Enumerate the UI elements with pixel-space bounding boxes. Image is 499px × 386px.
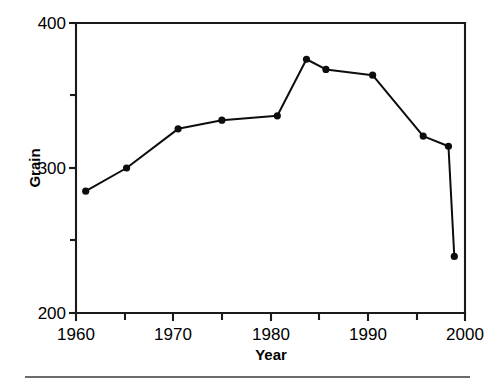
x-tick-label-1970: 1970	[154, 325, 192, 344]
x-axis-title: Year	[255, 346, 287, 363]
data-point	[82, 188, 89, 195]
x-tick-label-1960: 1960	[57, 325, 95, 344]
data-point	[175, 125, 182, 132]
data-point	[420, 133, 427, 140]
data-point	[451, 253, 458, 260]
data-point	[322, 66, 329, 73]
y-tick-label-200: 200	[38, 304, 66, 323]
x-tick-label-1980: 1980	[252, 325, 290, 344]
data-point	[303, 56, 310, 63]
x-tick-label-2000: 2000	[446, 325, 484, 344]
series-line-grain	[86, 59, 455, 256]
data-point	[274, 112, 281, 119]
y-tick-label-400: 400	[38, 14, 66, 33]
data-point	[445, 143, 452, 150]
data-series-grain	[82, 56, 458, 260]
chart-figure: 400 300 200 1960 1970 1980 1990 2000 Gra…	[0, 0, 499, 386]
y-axis-title: Grain	[26, 148, 43, 187]
grain-vs-year-line-chart: 400 300 200 1960 1970 1980 1990 2000 Gra…	[0, 0, 499, 386]
x-tick-label-1990: 1990	[349, 325, 387, 344]
data-point	[123, 164, 130, 171]
data-point	[218, 117, 225, 124]
plot-frame	[76, 23, 465, 313]
data-point	[369, 72, 376, 79]
x-axis-ticks	[76, 313, 465, 321]
